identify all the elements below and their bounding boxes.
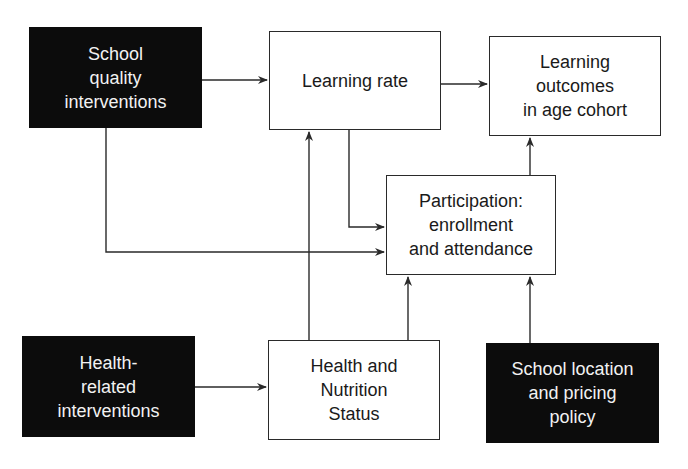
node-health-nutrition-status: Health and Nutrition Status <box>268 340 440 440</box>
edge-schoolquality-participation <box>106 128 384 252</box>
node-participation: Participation: enrollment and attendance <box>386 175 556 275</box>
node-learning-rate: Learning rate <box>269 31 441 130</box>
node-school-location-pricing: School location and pricing policy <box>486 343 659 443</box>
edge-learningrate-participation <box>349 130 384 227</box>
node-school-quality-interventions: School quality interventions <box>29 27 202 128</box>
node-health-related-interventions: Health- related interventions <box>22 336 195 437</box>
node-learning-outcomes: Learning outcomes in age cohort <box>489 36 661 136</box>
